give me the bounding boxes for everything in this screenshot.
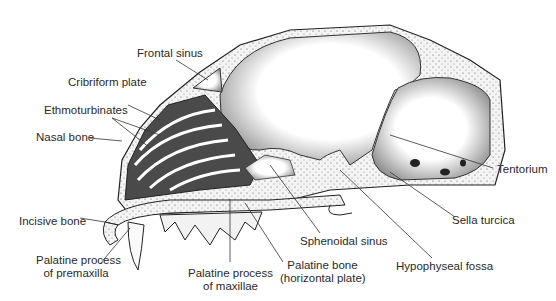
label-sphenoidal-sinus: Sphenoidal sinus: [300, 235, 388, 248]
label-nasal-bone: Nasal bone: [36, 131, 94, 144]
label-cribriform-plate: Cribriform plate: [68, 76, 147, 89]
upper-teeth: [160, 212, 262, 245]
label-ethmoturbinates: Ethmoturbinates: [44, 104, 128, 117]
label-hypophyseal-fossa: Hypophyseal fossa: [396, 260, 493, 273]
incisive-region: [103, 222, 118, 245]
label-tentorium: Tentorium: [497, 163, 548, 176]
label-incisive-bone: Incisive bone: [19, 215, 86, 228]
label-palatine-process-maxillae: Palatine process of maxillae: [188, 267, 273, 293]
label-frontal-sinus: Frontal sinus: [137, 47, 203, 60]
label-palatine-process-premaxilla: Palatine process of premaxilla: [36, 254, 116, 280]
label-sella-turcica: Sella turcica: [452, 214, 515, 227]
canine-tooth: [128, 222, 144, 270]
label-palatine-bone: Palatine bone (horizontal plate): [280, 259, 365, 285]
